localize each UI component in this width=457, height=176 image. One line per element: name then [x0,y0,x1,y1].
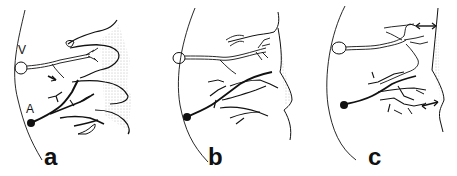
vein-label: V [18,44,26,56]
panel-b-drawing [173,8,292,162]
panel-label-b: b [208,145,223,169]
panel-a-drawing [15,10,132,160]
artery-label: A [26,103,34,115]
illustration [0,0,457,176]
panel-c-drawing [327,6,444,160]
panel-label-c: c [368,145,381,169]
figure: V A a b c [0,0,457,176]
panel-label-a: a [44,145,57,169]
